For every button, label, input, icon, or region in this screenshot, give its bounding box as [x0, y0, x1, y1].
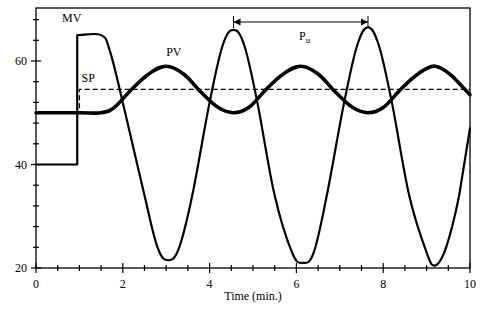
- y-tick-label: 20: [15, 261, 27, 275]
- arrowhead-left-icon: [233, 19, 240, 26]
- arrowhead-right-icon: [361, 19, 368, 26]
- x-tick-label: 10: [464, 277, 476, 291]
- x-tick-label: 0: [33, 277, 39, 291]
- label-pv: PV: [166, 45, 182, 59]
- period-label: Pu: [299, 29, 311, 45]
- chart: 0246810204060 MVPVSPPu Time (min.): [0, 0, 484, 313]
- y-tick-label: 60: [15, 54, 27, 68]
- x-tick-label: 2: [120, 277, 126, 291]
- series-sp-line: [36, 89, 470, 112]
- label-sp: SP: [82, 71, 96, 85]
- series-lines: [36, 27, 470, 265]
- x-tick-label: 4: [207, 277, 213, 291]
- series-mv-line: [36, 27, 470, 265]
- y-tick-label: 40: [15, 158, 27, 172]
- label-mv: MV: [62, 11, 82, 25]
- x-axis-label: Time (min.): [224, 289, 282, 303]
- x-tick-label: 8: [380, 277, 386, 291]
- plot-frame: [36, 8, 470, 268]
- x-tick-label: 6: [293, 277, 299, 291]
